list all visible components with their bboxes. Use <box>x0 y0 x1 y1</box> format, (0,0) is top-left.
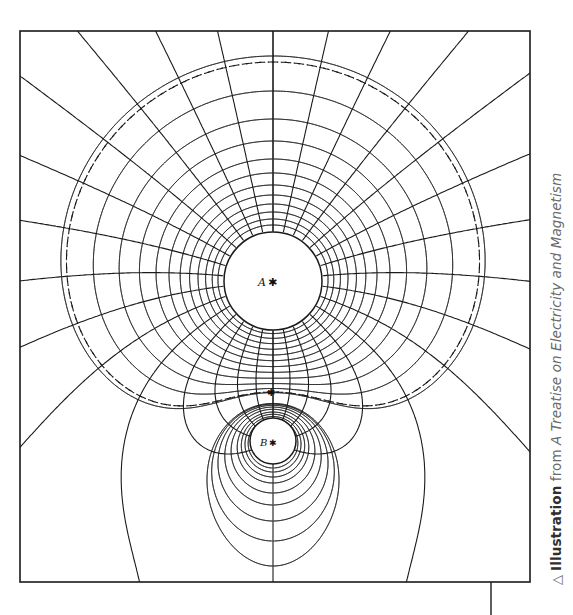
caption-title: A Treatise on Electricity and Magnetism <box>548 173 564 445</box>
charge-b-label: B <box>259 437 267 448</box>
caption-label: Illustration <box>548 486 564 571</box>
charge-a-label: A <box>257 276 266 289</box>
triangle-icon: △ <box>549 575 564 585</box>
field-lines-illustration: A ✱ B ✱ ✱ <box>0 0 573 615</box>
singular-point-icon: ✱ <box>267 387 275 398</box>
caption-from: from <box>548 445 564 486</box>
figure-caption: △Illustration from A Treatise on Electri… <box>548 173 564 585</box>
charge-a-star-icon: ✱ <box>268 276 277 289</box>
charge-b-star-icon: ✱ <box>269 438 277 448</box>
